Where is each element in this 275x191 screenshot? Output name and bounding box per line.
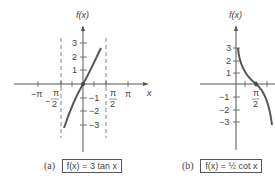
y-tick-label-neg1: −1 xyxy=(89,93,99,103)
y-tick-label-neg2: −2 xyxy=(89,106,99,116)
y-tick-label-2: 2 xyxy=(226,56,231,66)
y-tick-label-neg1: −1 xyxy=(219,92,229,102)
caption-letter-a: (a) xyxy=(44,160,55,171)
x-tick-half-pi-den: 2 xyxy=(110,99,115,109)
x-tick-neg-sign: − xyxy=(45,96,50,106)
y-tick-label-neg3: −3 xyxy=(89,120,99,130)
function-label-a: f(x) = 3 tan x xyxy=(62,159,122,173)
y-axis-arrow-icon xyxy=(81,25,85,31)
function-label-b: f(x) = ½ cot x xyxy=(200,159,262,173)
caption-letter-b: (b) xyxy=(182,160,194,171)
y-tick-label-3: 3 xyxy=(226,43,231,53)
y-tick-label-1: 1 xyxy=(72,65,77,75)
y-tick-label-3: 3 xyxy=(72,38,77,48)
y-tick-label-neg2: −2 xyxy=(219,105,229,115)
x-axis-arrow-icon xyxy=(143,82,149,86)
y-axis-label-a: f(x) xyxy=(76,10,89,20)
caption-a: (a) f(x) = 3 tan x xyxy=(44,159,122,173)
graph-a: f(x) x 3 2 1 −1 −2 −3 −π − π 2 π 2 π xyxy=(14,10,152,152)
y-axis-label-b: f(x) xyxy=(229,10,242,20)
x-axis-label-a: x xyxy=(146,88,152,98)
graph-b: f(x) 3 2 1 −1 −2 −3 π 2 xyxy=(200,10,275,150)
x-tick-half-pi-den: 2 xyxy=(253,99,258,109)
x-tick-half-pi-num: π xyxy=(253,88,259,98)
x-tick-neg-half-pi-den: 2 xyxy=(52,99,57,109)
y-tick-label-2: 2 xyxy=(72,52,77,62)
x-tick-half-pi-num: π xyxy=(110,88,116,98)
origin-point xyxy=(81,82,85,86)
zero-point xyxy=(254,82,258,86)
x-tick-label-neg-pi: −π xyxy=(31,89,42,99)
y-axis-arrow-icon xyxy=(234,25,238,31)
x-tick-label-pi: π xyxy=(125,89,131,99)
caption-b: (b) f(x) = ½ cot x xyxy=(182,159,262,173)
y-tick-label-neg3: −3 xyxy=(219,117,229,127)
x-tick-neg-half-pi-num: π xyxy=(53,88,59,98)
y-tick-label-1: 1 xyxy=(226,68,231,78)
